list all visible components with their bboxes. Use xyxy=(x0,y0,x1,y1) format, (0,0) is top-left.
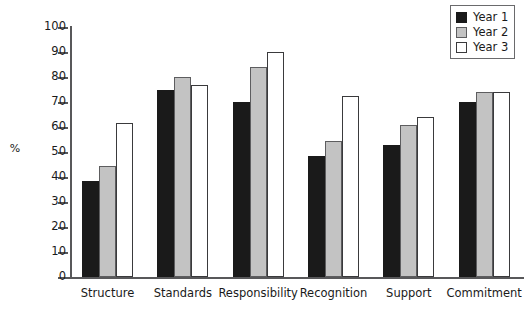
y-axis-tick-label: 30 xyxy=(51,195,66,208)
bar xyxy=(493,92,510,277)
x-axis-category-label: Structure xyxy=(81,286,135,300)
y-axis-tick-label: 90 xyxy=(51,45,66,58)
bar-group xyxy=(233,27,284,277)
bar xyxy=(233,102,250,277)
bar-group xyxy=(82,27,133,277)
bar xyxy=(191,85,208,278)
bar xyxy=(99,166,116,277)
legend-swatch-icon xyxy=(456,27,467,38)
legend-item-label: Year 2 xyxy=(473,26,508,39)
legend-item[interactable]: Year 1 xyxy=(456,10,508,24)
bar-group xyxy=(383,27,434,277)
bar xyxy=(400,125,417,278)
legend-item-label: Year 3 xyxy=(473,41,508,54)
bar xyxy=(267,52,284,277)
x-axis-line xyxy=(58,277,524,279)
y-axis-tick-label: 40 xyxy=(51,170,66,183)
x-axis-category-label: Recognition xyxy=(300,286,368,300)
bar-group xyxy=(308,27,359,277)
y-axis-tick-label: 60 xyxy=(51,120,66,133)
y-axis-tick-label: 70 xyxy=(51,95,66,108)
legend-item[interactable]: Year 3 xyxy=(456,40,508,54)
plot-area: 0102030405060708090100 xyxy=(70,27,522,277)
x-axis-category-label: Responsibility xyxy=(218,286,298,300)
bar xyxy=(308,156,325,277)
bar xyxy=(250,67,267,277)
bar xyxy=(325,141,342,277)
y-axis-tick-label: 20 xyxy=(51,220,66,233)
legend-item[interactable]: Year 2 xyxy=(456,25,508,39)
y-axis-title: % xyxy=(4,143,26,155)
bar xyxy=(342,96,359,277)
chart-legend: Year 1Year 2Year 3 xyxy=(450,5,515,59)
bar-group xyxy=(459,27,510,277)
y-axis-tick-label: 50 xyxy=(51,145,66,158)
legend-swatch-icon xyxy=(456,12,467,23)
x-axis-category-label: Commitment xyxy=(447,286,522,300)
bar xyxy=(174,77,191,277)
bar-group xyxy=(157,27,208,277)
x-axis-category-label: Standards xyxy=(154,286,212,300)
x-axis-category-label: Support xyxy=(386,286,431,300)
y-axis-tick-label: 0 xyxy=(59,270,66,283)
bar xyxy=(383,145,400,278)
bar xyxy=(417,117,434,277)
bar xyxy=(116,123,133,277)
bar xyxy=(476,92,493,277)
legend-item-label: Year 1 xyxy=(473,11,508,24)
legend-swatch-icon xyxy=(456,42,467,53)
y-axis-tick-label: 80 xyxy=(51,70,66,83)
bar-chart: % 0102030405060708090100 StructureStanda… xyxy=(0,0,530,309)
bar xyxy=(82,181,99,277)
y-axis-tick-label: 100 xyxy=(44,20,66,33)
y-axis-tick-label: 10 xyxy=(51,245,66,258)
bar xyxy=(157,90,174,278)
bar xyxy=(459,102,476,277)
